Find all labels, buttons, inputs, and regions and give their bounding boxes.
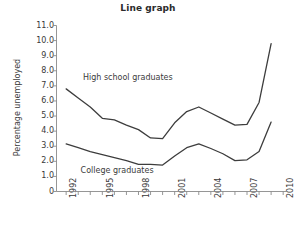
line-chart: Line graph Percentage unemployed 01.02.0… <box>0 0 296 232</box>
series-line-0 <box>66 44 271 139</box>
plot-area <box>0 0 296 232</box>
series-line-1 <box>66 122 271 165</box>
